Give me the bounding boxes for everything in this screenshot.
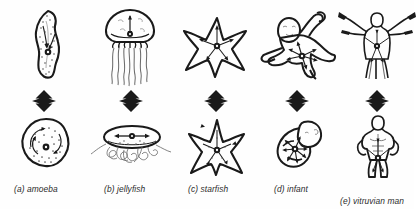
figure-column-starfish: (c) starfish bbox=[174, 0, 258, 209]
double-arrow-vertical-icon-amoeba bbox=[31, 90, 57, 112]
amoeba-extended-illustration bbox=[24, 8, 72, 80]
double-arrow-vertical-icon-infant bbox=[284, 90, 310, 112]
vitruvian-man-extended-illustration bbox=[338, 5, 416, 81]
figure-column-jellyfish: (b) jellyfish bbox=[88, 0, 174, 209]
infant-extended-illustration bbox=[258, 8, 340, 80]
vitruvian-man-standing-illustration bbox=[354, 113, 402, 179]
caption-infant: (d) infant bbox=[274, 184, 308, 194]
amoeba-rounded-illustration bbox=[18, 116, 74, 170]
figure-column-vitruvian-man: (e) vitruvian man bbox=[340, 0, 414, 209]
figure-column-amoeba: (a) amoeba bbox=[0, 0, 88, 209]
caption-vitruvian-man: (e) vitruvian man bbox=[340, 196, 404, 206]
caption-jellyfish: (b) jellyfish bbox=[104, 184, 145, 194]
starfish-illustration-top bbox=[182, 16, 252, 78]
figure-column-infant: (d) infant bbox=[258, 0, 340, 209]
infant-foetus-illustration bbox=[270, 116, 328, 172]
jellyfish-medusa-illustration bbox=[100, 6, 160, 86]
double-arrow-vertical-icon-vitruvian-man bbox=[364, 90, 390, 112]
caption-starfish: (c) starfish bbox=[188, 184, 228, 194]
caption-amoeba: (a) amoeba bbox=[14, 184, 58, 194]
double-arrow-vertical-icon-jellyfish bbox=[118, 90, 144, 112]
jellyfish-flattened-illustration bbox=[90, 120, 174, 172]
double-arrow-vertical-icon-starfish bbox=[203, 90, 229, 112]
starfish-illustration-bottom bbox=[186, 118, 248, 176]
